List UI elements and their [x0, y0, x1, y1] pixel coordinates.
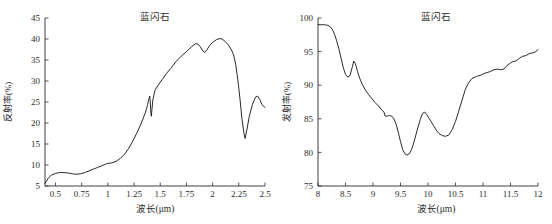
right-chart-title: 蓝闪石 — [421, 11, 451, 22]
right-x-tick-8: 12 — [534, 189, 543, 199]
right-x-tick-7: 11.5 — [503, 189, 519, 199]
right-y-tick-4: 95 — [304, 47, 314, 57]
left-y-tick-5: 30 — [31, 76, 41, 86]
left-y-tick-8: 45 — [31, 13, 41, 23]
right-axes-group — [318, 18, 538, 186]
left-x-axis-label: 波长(μm) — [136, 203, 175, 215]
left-x-tick-8: 2.5 — [259, 189, 271, 199]
reflectance-chart: 0.50.7511.251.51.7522.252.5 510152025303… — [0, 0, 276, 224]
right-y-axis-label: 发射率(%) — [281, 82, 292, 123]
left-y-tick-1: 10 — [31, 160, 41, 170]
left-y-tick-3: 20 — [31, 118, 41, 128]
left-x-tick-4: 1.5 — [155, 189, 167, 199]
left-x-tick-labels: 0.50.7511.251.51.7522.252.5 — [50, 189, 271, 199]
right-y-tick-5: 100 — [300, 13, 314, 23]
emissivity-chart: 88.599.51010.51111.512 7580859095100 蓝闪石… — [276, 0, 552, 224]
left-x-tick-6: 2 — [210, 189, 215, 199]
left-chart-title: 蓝闪石 — [140, 11, 170, 22]
left-y-tick-2: 15 — [31, 139, 41, 149]
right-x-tick-3: 9.5 — [395, 189, 407, 199]
right-y-tick-3: 90 — [304, 80, 314, 90]
chart-panel-right: 88.599.51010.51111.512 7580859095100 蓝闪石… — [276, 0, 552, 224]
right-x-tick-0: 8 — [316, 189, 321, 199]
right-x-axis-label: 波长(μm) — [417, 203, 456, 215]
right-x-tick-4: 10 — [424, 189, 434, 199]
right-tick-group — [318, 18, 538, 186]
right-data-curve — [318, 25, 538, 155]
right-x-tick-2: 9 — [371, 189, 376, 199]
right-y-tick-0: 75 — [304, 181, 314, 191]
right-y-tick-1: 80 — [304, 148, 314, 158]
left-y-tick-labels: 51015202530354045 — [31, 13, 41, 191]
chart-panel-left: 0.50.7511.251.51.7522.252.5 510152025303… — [0, 0, 276, 224]
left-x-tick-2: 1 — [106, 189, 111, 199]
left-y-tick-7: 40 — [31, 34, 41, 44]
left-x-tick-7: 2.25 — [231, 189, 247, 199]
left-x-tick-0: 0.5 — [50, 189, 62, 199]
left-x-tick-1: 0.75 — [74, 189, 90, 199]
right-x-tick-1: 8.5 — [340, 189, 352, 199]
left-x-tick-5: 1.75 — [179, 189, 195, 199]
right-x-tick-6: 11 — [479, 189, 488, 199]
left-data-curve — [45, 39, 265, 184]
left-y-tick-0: 5 — [36, 181, 41, 191]
left-tick-group — [45, 18, 265, 186]
figure-container: 0.50.7511.251.51.7522.252.5 510152025303… — [0, 0, 552, 224]
left-y-tick-6: 35 — [31, 55, 41, 65]
left-y-tick-4: 25 — [31, 97, 41, 107]
right-y-tick-2: 85 — [304, 114, 314, 124]
right-x-tick-labels: 88.599.51010.51111.512 — [316, 189, 543, 199]
left-y-axis-label: 反射率(%) — [2, 82, 13, 123]
right-x-tick-5: 10.5 — [448, 189, 464, 199]
right-y-tick-labels: 7580859095100 — [300, 13, 314, 191]
left-axes-group — [45, 18, 265, 186]
left-x-tick-3: 1.25 — [126, 189, 142, 199]
